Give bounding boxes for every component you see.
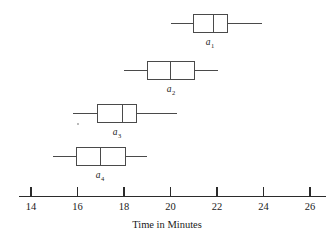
box-label-subscript-a1: 1 [211, 42, 214, 49]
box-label-a2: a2 [167, 84, 176, 96]
boxplot-a1 [171, 14, 263, 32]
boxplot-canvas: 14161820222426 a1a2a3a4 Time in Minutes [0, 0, 334, 235]
x-axis-tick-label-24: 24 [258, 201, 269, 212]
x-axis-tick-label-26: 26 [305, 201, 316, 212]
x-axis-tick-label-14: 14 [26, 201, 37, 212]
box-label-subscript-a4: 4 [101, 175, 105, 182]
box-label-subscript-a3: 3 [118, 132, 121, 139]
boxplot-a2 [124, 61, 218, 79]
box-label-a1: a1 [206, 37, 215, 49]
box-iqr-a2 [147, 61, 195, 79]
x-axis-tick-label-22: 22 [212, 201, 223, 212]
box-label-a3: a3 [113, 127, 122, 139]
boxplot-series-group [53, 14, 262, 165]
box-iqr-a1 [194, 14, 228, 32]
box-label-subscript-a2: 2 [172, 89, 175, 96]
x-axis-tick-label-18: 18 [119, 201, 130, 212]
x-axis-title: Time in Minutes [132, 219, 202, 230]
boxplot-figure: 14161820222426 a1a2a3a4 Time in Minutes [0, 0, 334, 235]
scan-artifact-speck [77, 123, 79, 125]
x-axis-tick-label-20: 20 [165, 201, 176, 212]
x-axis-tick-label-16: 16 [72, 201, 83, 212]
box-label-a4: a4 [96, 170, 105, 182]
boxplot-a4 [53, 147, 147, 165]
x-axis-group: 14161820222426 [19, 187, 326, 212]
box-iqr-a3 [97, 104, 137, 122]
boxplot-a3 [73, 104, 178, 122]
